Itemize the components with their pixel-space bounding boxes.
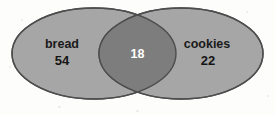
venn-diagram-figure: bread 54 18 cookies 22 [0,0,275,115]
intersection-count-label: 18 [131,47,145,61]
set-label-cookies: cookies [184,37,231,51]
set-label-bread: bread [45,37,79,51]
set-count-cookies: 22 [201,53,215,68]
venn-diagram-canvas: bread 54 18 cookies 22 [0,0,275,115]
set-count-bread: 54 [55,53,70,68]
